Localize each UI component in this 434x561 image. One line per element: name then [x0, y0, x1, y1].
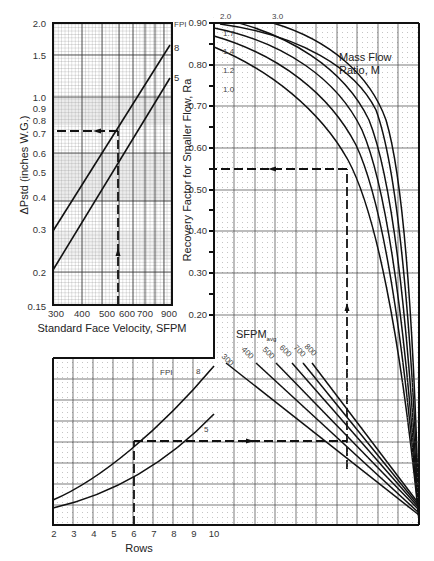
svg-text:0.15: 0.15 [28, 301, 47, 312]
m-1.4-label: 1.4 [223, 47, 235, 56]
svg-text:0.20: 0.20 [189, 309, 208, 320]
rows-fpi-8-label: 8 [196, 367, 201, 376]
x-axis-label-rows: Rows [125, 542, 153, 554]
svg-text:700: 700 [137, 308, 153, 319]
svg-text:0.8: 0.8 [33, 115, 46, 126]
svg-text:300: 300 [48, 308, 64, 319]
svg-text:5: 5 [111, 528, 116, 539]
svg-text:1.0: 1.0 [33, 92, 46, 103]
svg-text:0.7: 0.7 [33, 128, 46, 139]
svg-text:3: 3 [71, 528, 76, 539]
rows-fpi-5-label: 5 [204, 425, 209, 434]
svg-text:0.30: 0.30 [189, 267, 208, 278]
fpi-legend-title: FPI [174, 20, 186, 29]
svg-text:600: 600 [119, 308, 135, 319]
m-1.7-label: 1.7 [223, 29, 235, 38]
mass-flow-legend-title: Mass Flow [339, 51, 392, 63]
m-1.2-label: 1.2 [223, 66, 235, 75]
svg-text:0.2: 0.2 [33, 267, 46, 278]
svg-text:8: 8 [171, 528, 176, 539]
svg-text:0.9: 0.9 [33, 103, 46, 114]
svg-text:0.6: 0.6 [33, 148, 46, 159]
svg-text:0.5: 0.5 [33, 167, 46, 178]
svg-text:0.90: 0.90 [189, 17, 208, 28]
y-axis-label-recovery: Recovery Factor for Smaller Flow, Ra [181, 78, 193, 262]
rows-fpi-legend-title: FPI [160, 368, 172, 377]
m-2.0-label: 2.0 [220, 12, 232, 21]
svg-text:2: 2 [51, 528, 56, 539]
svg-text:9: 9 [191, 528, 196, 539]
svg-text:400: 400 [74, 308, 90, 319]
svg-text:0.4: 0.4 [33, 192, 46, 203]
chart-canvas: 2.0 1.5 1.0 0.9 0.8 0.7 0.6 0.5 0.4 0.3 … [0, 0, 434, 561]
svg-text:1.5: 1.5 [33, 50, 46, 61]
svg-text:4: 4 [91, 528, 96, 539]
svg-text:2.0: 2.0 [33, 18, 46, 29]
svg-text:0.80: 0.80 [189, 59, 208, 70]
svg-text:7: 7 [151, 528, 156, 539]
svg-text:0.3: 0.3 [33, 224, 46, 235]
svg-text:10: 10 [209, 528, 220, 539]
svg-text:500: 500 [99, 308, 115, 319]
fpi-8-label: 8 [174, 42, 179, 53]
fpi-5-label: 5 [174, 72, 179, 83]
svg-text:900: 900 [161, 308, 177, 319]
pressure-drop-chart: 2.0 1.5 1.0 0.9 0.8 0.7 0.6 0.5 0.4 0.3 … [18, 18, 186, 334]
svg-text:6: 6 [131, 528, 136, 539]
mass-flow-legend-subtitle: Ratio, M [339, 64, 380, 76]
m-3.0-label: 3.0 [272, 12, 284, 21]
x-axis-label-velocity: Standard Face Velocity, SFPM [38, 322, 187, 334]
y-axis-label-pressure: ΔPstd (inches W.G.) [18, 115, 30, 214]
m-1.0-label: 1.0 [223, 85, 235, 94]
